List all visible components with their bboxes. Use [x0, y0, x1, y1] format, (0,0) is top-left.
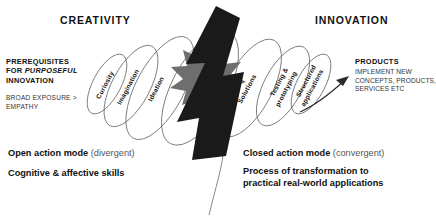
open-action-mode: Open action mode (divergent)	[8, 148, 135, 158]
open-action-mode-light: (divergent)	[88, 148, 134, 158]
prereq-line2-pre: FOR	[6, 66, 25, 75]
closed-action-mode-bold: Closed action mode	[243, 148, 330, 158]
prerequisites-title: PREREQUISITES FOR PURPOSEFUL INNOVATION	[6, 57, 102, 85]
tail-curve	[209, 148, 224, 215]
prerequisites-subtext: BROAD EXPOSURE > EMPATHY	[6, 93, 106, 111]
closed-action-mode: Closed action mode (convergent)	[243, 148, 384, 158]
products-subtext: IMPLEMENT NEW CONCEPTS, PRODUCTS, SERVIC…	[355, 68, 436, 94]
heading-innovation: INNOVATION	[315, 14, 388, 26]
closed-action-mode-light: (convergent)	[330, 148, 384, 158]
heading-creativity: CREATIVITY	[60, 14, 131, 26]
prereq-line2-emphasis: PURPOSEFUL	[25, 66, 78, 75]
open-action-mode-bold: Open action mode	[8, 148, 88, 158]
stage-label-ideation: Ideation	[146, 75, 165, 102]
prereq-line3: INNOVATION	[6, 76, 54, 85]
process-transformation-text: Process of transformation to practical r…	[243, 165, 433, 190]
process-line2: practical real-world applications	[243, 178, 383, 188]
stage-label-imagination: Imagination	[115, 68, 140, 106]
prereq-line1: PREREQUISITES	[6, 57, 69, 66]
cognitive-skills-text: Cognitive & affective skills	[8, 167, 124, 179]
products-arrow-head	[336, 76, 349, 86]
products-title: PRODUCTS	[355, 57, 399, 66]
diagram-canvas: Curiosity Imagination Ideation Solutions…	[0, 0, 436, 219]
process-line1: Process of transformation to	[243, 166, 369, 176]
